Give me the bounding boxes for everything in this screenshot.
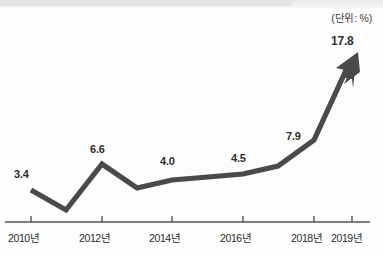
data-label-2014: 4.0	[160, 155, 175, 167]
x-axis-ticks	[31, 216, 352, 222]
x-tick-label-2014: 2014년	[149, 230, 180, 245]
data-label-2010: 3.4	[14, 168, 29, 180]
x-tick-label-2018: 2018년	[291, 230, 322, 245]
x-tick-label-2016: 2016년	[220, 230, 251, 245]
line-chart: (단위: %) 3.4 6.6 4.0 4.5 7.9 17.8 2010년 2…	[0, 0, 383, 254]
x-tick-label-2012: 2012년	[79, 230, 110, 245]
x-tick-label-2019: 2019년	[331, 230, 362, 245]
chart-plot-area	[0, 0, 383, 254]
data-label-2019: 17.8	[331, 34, 354, 48]
data-label-2012: 6.6	[90, 143, 105, 155]
data-label-2018: 7.9	[286, 130, 301, 142]
x-tick-label-2010: 2010년	[8, 230, 39, 245]
data-label-2016: 4.5	[231, 152, 246, 164]
